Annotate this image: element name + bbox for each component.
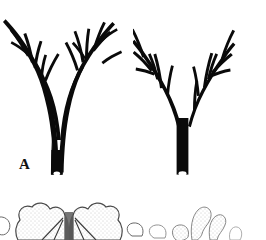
club-lobe-b xyxy=(191,207,211,240)
cropped-figure-row xyxy=(0,186,266,240)
club-lobe-c xyxy=(209,215,226,240)
branch-l3 xyxy=(34,41,43,68)
specimen-panel-a: A xyxy=(0,0,133,186)
club-lobe-d xyxy=(229,227,241,240)
trunk-base-b xyxy=(177,118,189,175)
small-loop-left xyxy=(149,225,166,238)
cut-stem-tip-b xyxy=(179,171,187,175)
branch-r4 xyxy=(102,51,123,65)
panel-label-a: A xyxy=(19,157,30,172)
specimen-b-silhouette xyxy=(133,29,235,175)
inner-riser-right xyxy=(60,66,84,140)
cut-stem-tip-a xyxy=(54,172,61,176)
branch-bl5 xyxy=(166,65,174,95)
club-shaped-stippled-structure xyxy=(148,196,258,240)
club-lobe-a xyxy=(172,225,188,240)
specimen-a-silhouette xyxy=(3,19,122,175)
specimen-panel-b: B xyxy=(133,0,266,186)
left-circle-outline xyxy=(0,217,10,235)
trunk-solid xyxy=(51,150,63,175)
bilobed-stippled-structure xyxy=(0,196,144,240)
left-lobe xyxy=(16,203,65,240)
arm-left-b xyxy=(133,40,181,127)
branch-l5 xyxy=(40,54,47,78)
right-circle-outline xyxy=(127,223,143,236)
specimen-b-drawing xyxy=(133,0,266,186)
specimen-plate: A xyxy=(0,0,266,240)
midrib-core xyxy=(65,212,73,240)
right-lobe xyxy=(73,203,122,240)
